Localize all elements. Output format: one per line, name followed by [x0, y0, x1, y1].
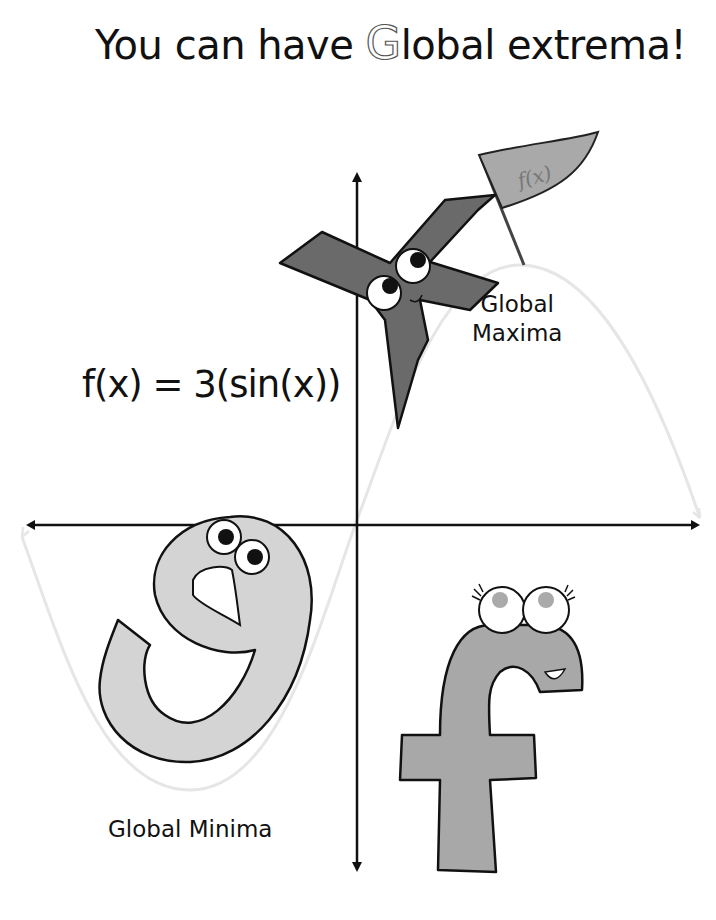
character-g — [100, 516, 312, 762]
character-f — [400, 584, 582, 872]
flag: f(x) — [479, 132, 598, 265]
character-f-body — [400, 625, 582, 872]
character-x-pupil-left — [382, 278, 398, 294]
global-maxima-line2: Maxima — [472, 320, 562, 346]
global-maxima-label: GlobalMaxima — [472, 290, 562, 348]
global-maxima-line1: Global — [481, 291, 554, 317]
graph-illustration: f(x) — [0, 0, 716, 920]
character-x-pupil-right — [410, 252, 426, 268]
curve-arrow-left-icon — [22, 527, 29, 537]
character-f-pupil-right — [538, 592, 554, 608]
x-axis-arrow-right-icon — [691, 520, 700, 530]
character-f-pupil-left — [492, 592, 508, 608]
y-axis-arrow-up-icon — [352, 172, 362, 182]
function-formula: f(x) = 3(sin(x)) — [82, 363, 341, 406]
x-axis-arrow-left-icon — [26, 520, 35, 530]
global-minima-label: Global Minima — [108, 815, 272, 844]
character-g-pupil-left — [218, 529, 234, 545]
character-g-pupil-right — [247, 549, 263, 565]
character-f-eyelashes-left — [472, 584, 483, 600]
character-g-body — [100, 516, 312, 762]
y-axis-arrow-down-icon — [352, 862, 362, 872]
